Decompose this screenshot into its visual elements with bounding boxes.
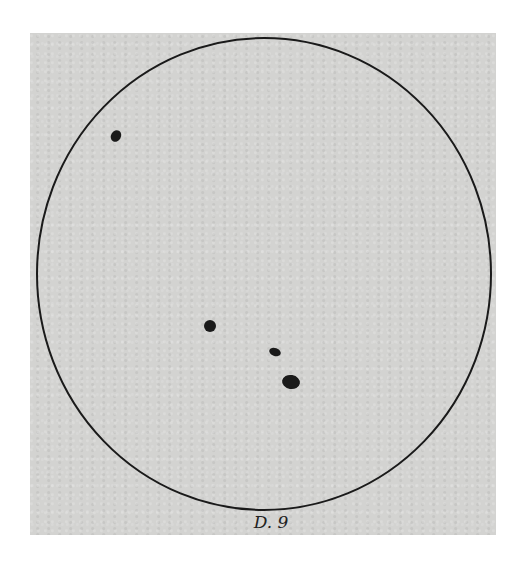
sunspot-spot-4 — [281, 374, 301, 391]
sunspot-spot-3 — [268, 346, 282, 358]
solar-disk-drawing — [0, 0, 512, 563]
plate-caption: D. 9 — [246, 512, 296, 532]
solar-disk-outline — [37, 38, 491, 510]
sunspot-spot-1 — [109, 128, 124, 143]
sunspot-spot-2 — [204, 320, 216, 332]
